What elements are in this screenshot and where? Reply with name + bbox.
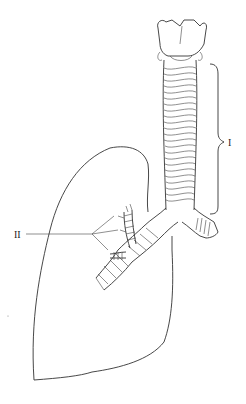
- pointer-II: [26, 216, 118, 250]
- bronchi: [96, 204, 218, 290]
- label-I: I: [228, 137, 231, 148]
- stray-mark: [7, 315, 8, 316]
- respiratory-diagram: I: [0, 0, 246, 404]
- lung-outline: [33, 147, 173, 380]
- bracket-I: [210, 64, 224, 214]
- label-II: II: [14, 229, 21, 240]
- larynx: [158, 20, 207, 61]
- trachea: [163, 60, 197, 210]
